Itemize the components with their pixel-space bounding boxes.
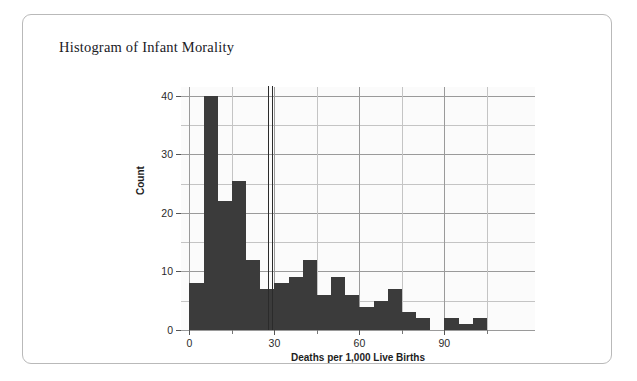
histogram-bar [388,289,402,330]
x-tick-label: 0 [187,337,193,349]
plot-area [181,87,535,330]
histogram-bar [317,295,331,330]
histogram-bar [374,301,388,330]
histogram-bar [331,277,345,330]
histogram-bar [345,295,359,330]
y-tick-label: 30 [161,148,173,160]
histogram-bar [402,312,416,330]
histogram-bar [444,318,458,330]
x-tick-mark-minor [317,330,318,334]
y-axis-ticks: 010203040 [133,87,181,330]
histogram-bar [473,318,487,330]
y-tick-label: 20 [161,207,173,219]
histogram-bar [204,96,218,330]
histogram-bar [246,260,260,330]
x-tick-mark-minor [402,330,403,334]
x-axis-title: Deaths per 1,000 Live Births [181,352,535,363]
histogram-bar [303,260,317,330]
histogram-bars [181,87,535,330]
histogram-bar [218,201,232,330]
x-tick-mark [274,330,275,335]
histogram-bar [289,277,303,330]
histogram-bar [232,181,246,330]
chart-title: Histogram of Infant Morality [59,39,234,56]
x-tick-mark [444,330,445,335]
y-tick-label: 0 [167,324,173,336]
histogram-bar [189,283,203,330]
x-tick-mark-minor [232,330,233,334]
x-tick-label: 60 [354,337,366,349]
y-tick-label: 10 [161,265,173,277]
histogram-bar [416,318,430,330]
x-tick-mark [359,330,360,335]
x-tick-mark [189,330,190,335]
x-tick-label: 90 [439,337,451,349]
x-tick-mark-minor [487,330,488,334]
y-axis-title: Count [135,166,146,195]
histogram-bar [359,307,373,330]
histogram-bar [274,283,288,330]
x-tick-label: 30 [269,337,281,349]
reference-vline [268,86,269,330]
chart-card: Histogram of Infant Morality 010203040 C… [22,14,612,364]
y-tick-label: 40 [161,90,173,102]
reference-vline [272,86,273,330]
